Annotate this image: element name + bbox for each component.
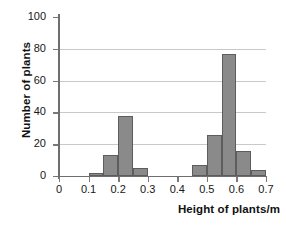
x-axis-tick — [207, 177, 208, 182]
x-axis-tick-label: 0.3 — [135, 184, 161, 195]
histogram-bar — [118, 116, 133, 176]
x-axis-tick — [89, 177, 90, 182]
y-axis-tick-label: 40 — [12, 106, 46, 117]
x-axis-tick-label: 0.7 — [253, 184, 279, 195]
y-axis-tick-label: 100 — [12, 11, 46, 22]
y-axis-tick-label: 60 — [12, 75, 46, 86]
histogram-bar — [192, 165, 207, 176]
x-axis-tick-label: 0.6 — [223, 184, 249, 195]
x-axis-tick — [236, 177, 237, 182]
x-axis-tick-label: 0.2 — [105, 184, 131, 195]
histogram-chart: Number of plants 020406080100 00.10.20.3… — [0, 0, 286, 225]
x-axis-tick — [118, 177, 119, 182]
histogram-bar — [133, 168, 148, 176]
histogram-bar — [207, 135, 222, 176]
x-axis-tick-label: 0.1 — [76, 184, 102, 195]
histogram-bar — [222, 54, 237, 176]
histogram-bar — [236, 151, 251, 176]
x-axis-tick-label: 0.5 — [194, 184, 220, 195]
x-axis-tick — [148, 177, 149, 182]
x-axis-tick-label: 0.4 — [164, 184, 190, 195]
y-axis-tick-label: 80 — [12, 43, 46, 54]
histogram-bar — [89, 173, 104, 176]
x-axis-tick — [266, 177, 267, 182]
x-axis-tick-label: 0 — [46, 184, 72, 195]
x-axis-title: Height of plants/m — [0, 203, 280, 215]
y-axis-tick-label: 0 — [12, 170, 46, 181]
histogram-bar — [251, 170, 266, 176]
x-axis-tick — [59, 177, 60, 182]
x-axis-tick — [177, 177, 178, 182]
plot-area — [59, 17, 266, 176]
histogram-bar — [103, 155, 118, 176]
y-axis-tick-label: 20 — [12, 138, 46, 149]
